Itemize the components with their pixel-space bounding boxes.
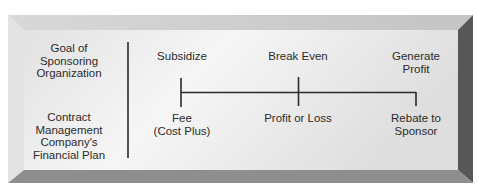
plan-line: Rebate to (391, 112, 441, 125)
bevel-left (8, 15, 24, 183)
goal-generate-profit: Generate Profit (392, 50, 440, 75)
row-label-plan-line: Financial Plan (33, 149, 105, 162)
goal-line: Subsidize (157, 50, 207, 63)
bevel-right (458, 15, 473, 183)
bevel-top (8, 15, 473, 30)
row-label-goal: Goal of Sponsoring Organization (36, 42, 101, 80)
goal-line: Break Even (268, 50, 327, 63)
plan-line: Profit or Loss (264, 112, 332, 125)
goal-line: Generate (392, 50, 440, 63)
plan-rebate: Rebate to Sponsor (391, 112, 441, 137)
row-label-plan: Contract Management Company's Financial … (33, 111, 105, 161)
row-label-plan-line: Contract (33, 111, 105, 124)
row-label-plan-line: Company's (33, 136, 105, 149)
plan-line: (Cost Plus) (154, 125, 211, 138)
goal-break-even: Break Even (268, 50, 327, 63)
plan-fee: Fee (Cost Plus) (154, 112, 211, 137)
row-label-goal-line: Organization (36, 67, 101, 80)
plan-line: Sponsor (391, 125, 441, 138)
row-label-plan-line: Management (33, 124, 105, 137)
plan-line: Fee (154, 112, 211, 125)
goal-subsidize: Subsidize (157, 50, 207, 63)
plan-profit-or-loss: Profit or Loss (264, 112, 332, 125)
row-label-goal-line: Goal of (36, 42, 101, 55)
bevel-bottom (8, 170, 473, 183)
goal-line: Profit (392, 63, 440, 76)
row-label-goal-line: Sponsoring (36, 55, 101, 68)
beveled-panel (0, 0, 479, 193)
